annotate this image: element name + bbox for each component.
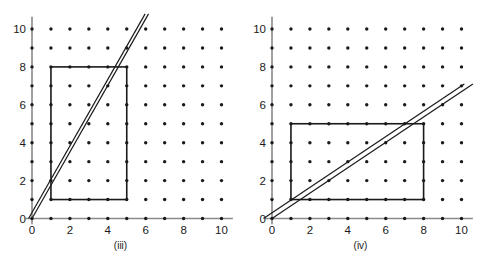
lattice-dot <box>289 27 292 30</box>
lattice-dot <box>106 103 109 106</box>
lattice-dot <box>384 27 387 30</box>
lattice-dot <box>87 160 90 163</box>
lattice-dot <box>289 217 292 220</box>
lattice-dot <box>384 84 387 87</box>
y-tick-label: 4 <box>260 137 267 149</box>
lattice-dot <box>201 160 204 163</box>
lattice-dot <box>68 122 71 125</box>
lattice-dot <box>106 141 109 144</box>
y-tick-label: 4 <box>20 137 27 149</box>
plot-svg-iv: 02468100246810 <box>240 0 481 263</box>
lattice-dot <box>144 217 147 220</box>
lattice-dot <box>346 46 349 49</box>
lattice-dot <box>182 46 185 49</box>
lattice-dot <box>87 103 90 106</box>
lattice-dot <box>144 27 147 30</box>
lattice-dot <box>30 179 33 182</box>
lattice-dot <box>144 46 147 49</box>
lattice-dot <box>327 84 330 87</box>
lattice-dot <box>182 141 185 144</box>
line-upper <box>29 14 146 219</box>
lattice-dot <box>182 179 185 182</box>
x-tick-label: 4 <box>105 224 112 236</box>
lattice-dot <box>365 160 368 163</box>
lattice-dot <box>163 217 166 220</box>
lattice-dot <box>403 103 406 106</box>
lattice-dot <box>422 84 425 87</box>
y-tick-label: 10 <box>253 23 266 35</box>
lattice-dot <box>220 198 223 201</box>
lattice-dot <box>201 217 204 220</box>
lattice-dot <box>403 217 406 220</box>
lattice-dot <box>163 122 166 125</box>
lattice-dot <box>403 27 406 30</box>
lattice-dot <box>30 84 33 87</box>
lattice-dot <box>87 179 90 182</box>
y-tick-label: 6 <box>260 99 266 111</box>
lattice-dot <box>182 198 185 201</box>
lattice-dot <box>220 160 223 163</box>
lattice-dot <box>182 217 185 220</box>
lattice-dot <box>201 122 204 125</box>
lattice-dot <box>68 46 71 49</box>
lattice-dot <box>220 65 223 68</box>
x-tick-label: 10 <box>455 224 468 236</box>
panel-caption-iv: (iv) <box>240 240 481 251</box>
lattice-dot <box>441 141 444 144</box>
lattice-dot <box>220 217 223 220</box>
lattice-dot <box>346 84 349 87</box>
lattice-dot <box>422 27 425 30</box>
lattice-dot <box>144 65 147 68</box>
lattice-dot <box>327 46 330 49</box>
lattice-dot <box>365 179 368 182</box>
lattice-dot <box>125 27 128 30</box>
lattice-dot <box>327 27 330 30</box>
lattice-dot <box>220 27 223 30</box>
lattice-dot <box>106 179 109 182</box>
x-tick-label: 6 <box>142 224 148 236</box>
lattice-dot <box>144 84 147 87</box>
lattice-dot <box>182 84 185 87</box>
lattice-dot <box>49 46 52 49</box>
lattice-dot <box>163 46 166 49</box>
lattice-dot <box>403 65 406 68</box>
lattice-dot <box>30 46 33 49</box>
lattice-dot <box>346 179 349 182</box>
lattice-dot <box>384 217 387 220</box>
lattice-dot <box>460 103 463 106</box>
lattice-dot <box>182 122 185 125</box>
lattice-dot <box>220 122 223 125</box>
lattice-dot <box>346 65 349 68</box>
lattice-dot <box>289 46 292 49</box>
lattice-dot <box>289 103 292 106</box>
lattice-dot <box>365 46 368 49</box>
lattice-dot <box>201 27 204 30</box>
lattice-dot <box>308 103 311 106</box>
lattice-dot <box>201 65 204 68</box>
lattice-dot <box>270 179 273 182</box>
lattice-dot <box>441 179 444 182</box>
lattice-dot <box>365 65 368 68</box>
x-tick-label: 2 <box>67 224 73 236</box>
lattice-dot <box>49 217 52 220</box>
x-tick-label: 8 <box>180 224 186 236</box>
line-upper <box>263 84 464 219</box>
lattice-dot <box>422 103 425 106</box>
lattice-dot <box>270 103 273 106</box>
lattice-dot <box>460 217 463 220</box>
lattice-dot <box>68 217 71 220</box>
lattice-dot <box>201 46 204 49</box>
lattice-dot <box>201 141 204 144</box>
lattice-dot <box>422 46 425 49</box>
lattice-dot <box>68 179 71 182</box>
x-tick-label: 10 <box>215 224 228 236</box>
y-tick-label: 8 <box>20 61 26 73</box>
lattice-dot <box>346 27 349 30</box>
lattice-dot <box>87 84 90 87</box>
lattice-dot <box>87 122 90 125</box>
lattice-dot <box>163 198 166 201</box>
lattice-dot <box>460 122 463 125</box>
lattice-dot <box>106 122 109 125</box>
lattice-dot <box>422 217 425 220</box>
lattice-dot <box>87 46 90 49</box>
